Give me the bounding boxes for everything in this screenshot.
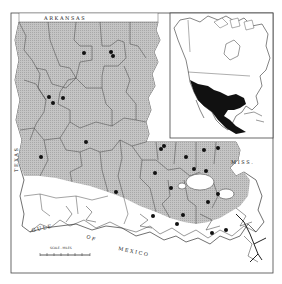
arkansas-band bbox=[19, 13, 158, 22]
specimen-dot bbox=[184, 155, 188, 159]
specimen-dot bbox=[111, 54, 115, 58]
scale-label: SCALE - MILES bbox=[50, 246, 72, 250]
specimen-dot bbox=[39, 155, 43, 159]
specimen-dot bbox=[47, 95, 51, 99]
specimen-dot bbox=[206, 200, 210, 204]
specimen-dot bbox=[175, 222, 179, 226]
specimen-dot bbox=[84, 140, 88, 144]
specimen-dot bbox=[109, 50, 113, 54]
north-america-inset bbox=[170, 13, 273, 138]
specimen-dot bbox=[159, 147, 163, 151]
specimen-dot bbox=[169, 186, 173, 190]
specimen-dot bbox=[216, 146, 220, 150]
specimen-dot bbox=[151, 214, 155, 218]
label-arkansas: A R K A N S A S bbox=[43, 15, 85, 21]
specimen-dot bbox=[181, 213, 185, 217]
lake-borgne bbox=[218, 189, 234, 199]
specimen-dot bbox=[82, 51, 86, 55]
label-texas: T E X A S bbox=[13, 147, 19, 172]
distribution-map: A R K A N S A S T E X A S M I S S . G U … bbox=[0, 0, 282, 284]
specimen-dot bbox=[210, 231, 214, 235]
specimen-dot bbox=[204, 169, 208, 173]
specimen-dot bbox=[51, 101, 55, 105]
specimen-dot bbox=[202, 148, 206, 152]
specimen-dot bbox=[153, 171, 157, 175]
lake-pontchartrain bbox=[186, 174, 214, 190]
label-mississippi: M I S S . bbox=[231, 159, 253, 165]
specimen-dot bbox=[162, 144, 166, 148]
specimen-dot bbox=[192, 167, 196, 171]
lake-maurepas bbox=[178, 183, 186, 189]
specimen-dot bbox=[224, 228, 228, 232]
specimen-dot bbox=[61, 96, 65, 100]
specimen-dot bbox=[216, 192, 220, 196]
specimen-dot bbox=[114, 190, 118, 194]
